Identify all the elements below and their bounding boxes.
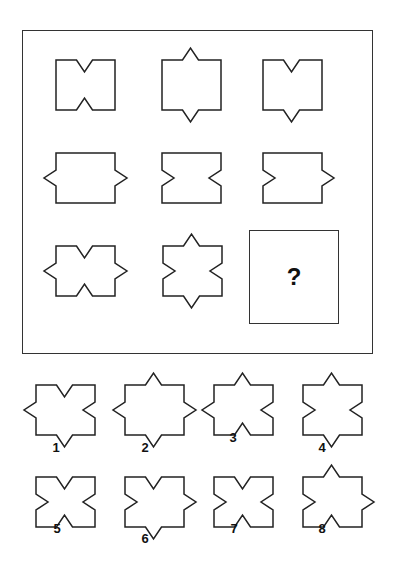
answer-option-label: 3 [223, 430, 243, 445]
answer-option-4[interactable] [289, 371, 376, 449]
answer-option-label: 7 [224, 521, 244, 536]
cropped-header-text [40, 0, 160, 4]
matrix-cell-r1c2 [148, 46, 235, 124]
answer-option-label: 8 [312, 521, 332, 536]
answer-option-label: 5 [47, 521, 67, 536]
notched-box-icon [289, 371, 376, 449]
notched-box-icon [148, 139, 235, 217]
notched-box-icon [111, 371, 198, 449]
matrix-cell-r1c1 [42, 46, 129, 124]
notched-box-icon [249, 139, 336, 217]
notched-box-icon [200, 371, 287, 449]
answer-option-8[interactable] [289, 463, 376, 541]
answer-option-2[interactable] [111, 371, 198, 449]
notched-box-icon [149, 232, 236, 310]
matrix-cell-r3c1 [42, 232, 129, 310]
notched-box-icon [42, 46, 129, 124]
matrix-cell-r2c3 [249, 139, 336, 217]
notched-box-icon [289, 463, 376, 541]
matrix-cell-r2c1 [42, 139, 129, 217]
answer-option-1[interactable] [22, 371, 109, 449]
notched-box-icon [42, 139, 129, 217]
answer-option-6[interactable] [111, 463, 198, 541]
answer-option-label: 4 [312, 440, 332, 455]
matrix-cell-r2c2 [148, 139, 235, 217]
answer-option-label: 2 [135, 440, 155, 455]
answer-option-3[interactable] [200, 371, 287, 449]
matrix-cell-r1c3 [249, 46, 336, 124]
answer-option-label: 6 [135, 531, 155, 546]
notched-box-icon [22, 371, 109, 449]
matrix-cell-r3c2 [149, 232, 236, 310]
notched-box-icon [42, 232, 129, 310]
notched-box-icon [249, 46, 336, 124]
missing-cell-box: ? [249, 230, 339, 324]
notched-box-icon [111, 463, 198, 541]
answer-option-label: 1 [46, 440, 66, 455]
question-mark: ? [287, 263, 302, 291]
notched-box-icon [148, 46, 235, 124]
